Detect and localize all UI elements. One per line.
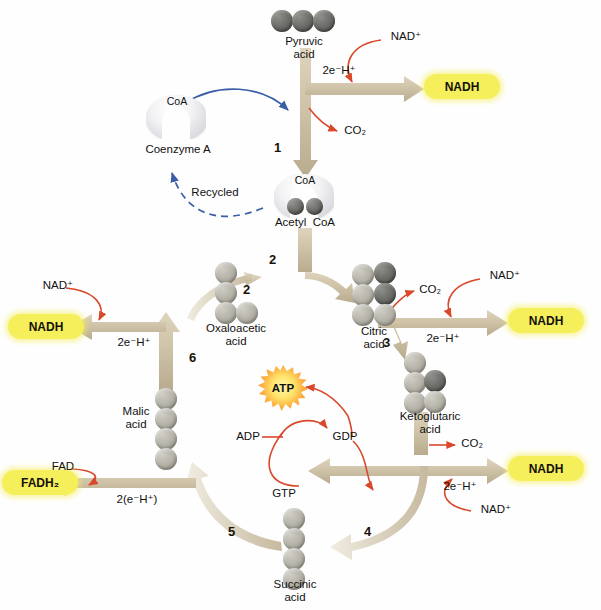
step-number-4: 4 xyxy=(364,524,371,539)
reactant-nad-top: NAD⁺ xyxy=(383,30,429,43)
nadh-right-lower-text: NADH xyxy=(529,462,564,476)
step-number-2-arc: 2 xyxy=(243,282,250,297)
label-pyruvic-acid: Pyruvic acid xyxy=(265,35,343,61)
co2-step1-arrow xyxy=(309,108,337,131)
step-number-1: 1 xyxy=(274,140,281,155)
label-coenzyme-a: Coenzyme A xyxy=(128,143,228,156)
acetyl-coa-carbon-2 xyxy=(306,198,323,215)
atp-text: ATP xyxy=(272,382,295,394)
electron-label-fadh2: 2(e⁻H⁺) xyxy=(102,493,172,506)
label-acetyl-coa: Acetyl CoA xyxy=(258,216,352,229)
product-nadh-right-upper[interactable]: NADH xyxy=(508,308,584,333)
reactant-gdp: GDP xyxy=(328,430,362,443)
nadh-left-text: NADH xyxy=(29,320,64,334)
gtp-to-atp-curve xyxy=(269,433,299,486)
annotation-recycled: Recycled xyxy=(184,186,246,199)
fadh2-text: FADH₂ xyxy=(21,476,59,490)
product-nadh-top[interactable]: NADH xyxy=(424,74,500,99)
reactant-nad-right-lower: NAD⁺ xyxy=(473,503,519,516)
atp-arrow xyxy=(306,387,348,416)
label-citric-acid: Citric acid xyxy=(337,325,411,351)
product-nadh-left[interactable]: NADH xyxy=(8,314,84,339)
reactant-nad-right-upper: NAD⁺ xyxy=(482,269,528,282)
byproduct-co2-step3: CO₂ xyxy=(414,283,446,296)
reactant-nad-left: NAD⁺ xyxy=(35,279,81,292)
label-oxaloacetic-acid: Oxaloacetic acid xyxy=(186,322,286,348)
acetyl-coa-carbon-1 xyxy=(287,198,304,215)
nadh-top-text: NADH xyxy=(445,80,480,94)
nad-right-upper-arrow xyxy=(448,279,480,317)
product-atp[interactable]: ATP xyxy=(258,365,308,411)
electron-label-right-lower: 2e⁻H⁺ xyxy=(432,480,488,493)
badge-coa-acetyl: CoA xyxy=(280,175,330,187)
gdp-to-gtp-arrow xyxy=(353,441,373,490)
reactant-fad: FAD xyxy=(45,460,81,473)
label-ketoglutaric-acid: Ketoglutaric acid xyxy=(382,410,478,436)
electron-label-top: 2e⁻H⁺ xyxy=(311,64,367,77)
krebs-cycle-diagram: Pyruvic acid CoA Coenzyme A CoA Acetyl C… xyxy=(0,0,601,610)
product-nadh-right-lower[interactable]: NADH xyxy=(508,456,584,481)
reactant-adp: ADP xyxy=(231,430,265,443)
step-number-3: 3 xyxy=(383,335,390,350)
electron-label-left: 2e⁻H⁺ xyxy=(106,336,162,349)
adp-to-gdp-arrow xyxy=(280,421,327,437)
nadh-right-upper-text: NADH xyxy=(529,314,564,328)
step-number-2-stem: 2 xyxy=(269,252,276,267)
label-succinic-acid: Succinic acid xyxy=(255,578,335,604)
byproduct-co2-step4: CO₂ xyxy=(456,437,488,450)
badge-coa-free: CoA xyxy=(152,96,202,108)
step-number-5: 5 xyxy=(228,524,235,539)
electron-label-right-upper: 2e⁻H⁺ xyxy=(415,332,471,345)
step-number-6: 6 xyxy=(189,350,196,365)
reactant-gtp: GTP xyxy=(267,487,301,500)
product-fadh2[interactable]: FADH₂ xyxy=(2,470,78,495)
label-malic-acid: Malic acid xyxy=(112,405,160,431)
byproduct-co2-step1: CO₂ xyxy=(339,124,371,137)
